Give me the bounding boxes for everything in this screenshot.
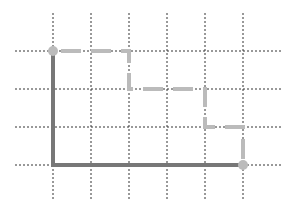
- grid-lines: [15, 13, 283, 200]
- solid-path: [53, 51, 243, 165]
- grid-path-diagram: [0, 0, 295, 213]
- dashed-path: [53, 51, 243, 165]
- end-point-dot: [238, 160, 248, 170]
- diagram-canvas: [0, 0, 295, 213]
- start-point-dot: [48, 46, 58, 56]
